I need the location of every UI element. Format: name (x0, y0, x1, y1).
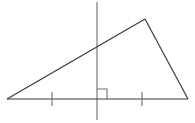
geometry-canvas (0, 0, 195, 123)
geometry-figure (0, 0, 195, 123)
